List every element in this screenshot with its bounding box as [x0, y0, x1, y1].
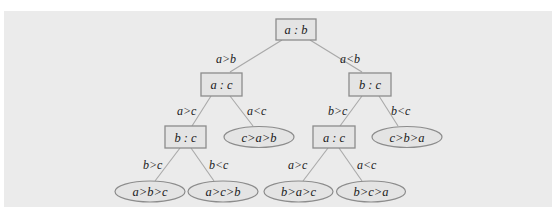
node-right-left: a : c [313, 126, 355, 148]
edge-label-rl-right: a<c [357, 158, 377, 172]
node-label: b : c [359, 78, 382, 92]
node-label: b : c [174, 131, 197, 145]
node-label: a : c [323, 131, 346, 145]
leaf-label: c>a>b [242, 131, 277, 145]
edge-label-root-right: a<b [340, 52, 360, 66]
node-left: a : c [201, 73, 242, 96]
edge-label-root-left: a>b [216, 52, 236, 66]
node-label: a : c [210, 78, 233, 92]
edge-label-right-right: b<c [391, 104, 411, 118]
leaf-ll-left: a>b>c [115, 181, 185, 202]
node-root: a : b [276, 19, 316, 40]
leaf-rl-right: b>c>a [337, 181, 406, 202]
edge-label-rl-left: a>c [288, 158, 308, 172]
leaf-label: b>a>c [281, 185, 316, 199]
leaf-ll-right: a>c>b [188, 181, 258, 202]
edge-root-left [230, 40, 282, 72]
node-right: b : c [349, 73, 391, 96]
leaf-label: c>b>a [390, 131, 425, 145]
edge-label-ll-right: b<c [209, 158, 229, 172]
leaf-rl-left: b>a>c [264, 181, 333, 202]
edge-labels: a>b a<b a>c a<c b>c b<c b>c b<c a>c a<c [143, 52, 411, 172]
node-label: a : b [285, 23, 308, 37]
leaf-right-right: c>b>a [372, 127, 442, 148]
edge-label-left-left: a>c [177, 104, 197, 118]
edge-label-ll-left: b>c [143, 158, 163, 172]
leaf-label: a>b>c [133, 185, 168, 199]
leaf-label: b>c>a [354, 185, 389, 199]
node-left-left: b : c [165, 126, 206, 148]
leaf-left-right: c>a>b [224, 127, 294, 148]
edge-label-left-right: a<c [247, 104, 267, 118]
decision-tree: a>b a<b a>c a<c b>c b<c b>c b<c a>c a<c … [0, 0, 558, 214]
leaf-label: a>c>b [206, 185, 241, 199]
edge-label-right-left: b>c [328, 104, 348, 118]
